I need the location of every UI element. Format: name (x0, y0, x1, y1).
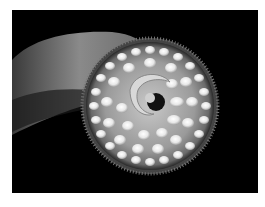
lamprey-photo (12, 10, 258, 193)
photo-frame (12, 10, 258, 193)
